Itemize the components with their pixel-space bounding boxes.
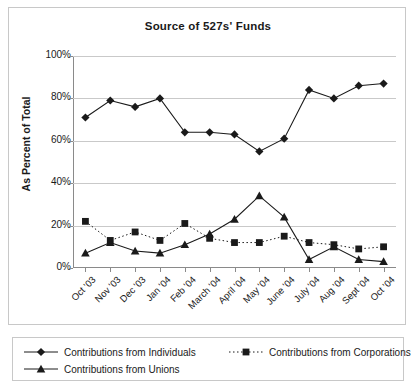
data-point-marker — [206, 128, 214, 136]
legend-label: Contributions from Individuals — [64, 347, 196, 358]
chart-legend: Contributions from IndividualsContributi… — [12, 337, 404, 381]
legend-item[interactable]: Contributions from Unions — [23, 363, 180, 375]
data-point-marker — [256, 239, 263, 246]
data-point-marker — [181, 220, 188, 227]
data-point-marker — [181, 128, 189, 136]
data-point-marker — [131, 247, 140, 255]
data-point-marker — [305, 86, 313, 94]
data-point-marker — [106, 96, 114, 104]
data-point-marker — [330, 94, 338, 102]
data-point-marker — [354, 255, 363, 263]
y-tick-label: 40% — [25, 176, 71, 187]
data-point-marker — [281, 233, 288, 240]
x-tick-mark — [309, 268, 310, 272]
chart-frame: Source of 527s' Funds As Percent of Tota… — [8, 7, 406, 325]
x-tick-mark — [210, 268, 211, 272]
legend-symbol-triangle-icon — [23, 363, 59, 375]
data-point-marker — [132, 229, 139, 236]
legend-label: Contributions from Unions — [64, 364, 180, 375]
data-point-marker — [255, 192, 264, 200]
data-point-marker — [355, 82, 363, 90]
data-point-marker — [280, 135, 288, 143]
data-point-marker — [81, 113, 89, 121]
data-point-marker — [181, 240, 190, 248]
legend-item[interactable]: Contributions from Individuals — [23, 346, 196, 358]
x-tick-mark — [110, 268, 111, 272]
series-line — [85, 84, 383, 152]
data-point-marker — [156, 94, 164, 102]
data-point-marker — [305, 255, 314, 263]
y-tick-label: 80% — [25, 91, 71, 102]
data-point-marker — [306, 239, 313, 246]
y-tick-mark — [69, 268, 73, 269]
plot-area: 0%20%40%60%80%100% Oct '03Nov '03Dec '03… — [73, 56, 396, 268]
x-tick-mark — [135, 268, 136, 272]
y-tick-label: 0% — [25, 261, 71, 272]
data-point-marker — [205, 230, 214, 238]
data-point-marker — [355, 246, 362, 253]
x-tick-mark — [160, 268, 161, 272]
data-point-marker — [157, 237, 164, 244]
x-tick-mark — [185, 268, 186, 272]
x-tick-mark — [334, 268, 335, 272]
y-tick-label: 60% — [25, 134, 71, 145]
chart-title: Source of 527s' Funds — [9, 20, 407, 32]
data-point-marker — [255, 147, 263, 155]
data-point-marker — [231, 239, 238, 246]
data-point-marker — [131, 103, 139, 111]
legend-label: Contributions from Corporations — [269, 347, 411, 358]
x-tick-mark — [284, 268, 285, 272]
data-point-marker — [380, 243, 387, 250]
x-tick-mark — [85, 268, 86, 272]
legend-symbol-square-icon — [228, 346, 264, 358]
x-tick-mark — [259, 268, 260, 272]
data-point-marker — [82, 218, 89, 225]
y-tick-label: 20% — [25, 219, 71, 230]
x-tick-mark — [235, 268, 236, 272]
x-tick-mark — [384, 268, 385, 272]
legend-symbol-diamond-icon — [23, 346, 59, 358]
series-line — [85, 196, 383, 262]
data-point-marker — [379, 79, 387, 87]
data-point-marker — [230, 130, 238, 138]
x-tick-mark — [359, 268, 360, 272]
data-series-layer — [73, 56, 396, 268]
data-point-marker — [81, 249, 90, 257]
y-tick-label: 100% — [25, 49, 71, 60]
legend-item[interactable]: Contributions from Corporations — [228, 346, 411, 358]
